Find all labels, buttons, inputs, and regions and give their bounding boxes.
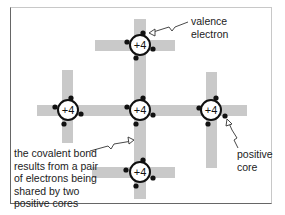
arrowhead-icon xyxy=(226,119,232,126)
electron-dot xyxy=(124,39,129,44)
label-covalent-bond: the covalent bond results from a pair of… xyxy=(14,147,98,210)
electron-dot xyxy=(140,95,145,100)
label-line: core xyxy=(237,161,273,174)
label-positive-core: positive core xyxy=(237,148,273,173)
charge-label: +4 xyxy=(134,166,147,178)
arrowhead-icon xyxy=(149,29,155,36)
label-line: electron xyxy=(191,28,228,41)
electron-dot xyxy=(150,112,155,117)
electron-dot xyxy=(68,95,73,100)
electron-dot xyxy=(140,157,145,162)
electron-dot xyxy=(133,55,138,60)
charge-label: +4 xyxy=(205,104,218,116)
label-line: the covalent bond xyxy=(14,147,98,160)
charge-label: +4 xyxy=(62,104,75,116)
electron-dot xyxy=(123,167,128,172)
electron-dot xyxy=(222,113,227,118)
electron-dot xyxy=(205,121,210,126)
electron-dot xyxy=(196,105,201,110)
electron-dot xyxy=(140,30,145,35)
arrowhead-icon xyxy=(128,137,134,144)
charge-label: +4 xyxy=(134,39,147,51)
arrow-valence-electron xyxy=(150,22,188,33)
electron-dot xyxy=(124,104,129,109)
electron-dot xyxy=(78,111,83,116)
label-line: of electrons being xyxy=(14,172,98,185)
electron-dot xyxy=(150,46,155,51)
label-line: shared by two xyxy=(14,185,98,198)
electron-dot xyxy=(150,175,155,180)
electron-dot xyxy=(61,121,66,126)
label-line: positive cores xyxy=(14,197,98,210)
electron-dot xyxy=(52,104,57,109)
label-line: results from a pair xyxy=(14,160,98,173)
label-valence-electron: valence electron xyxy=(191,15,228,40)
covalent-bond-diagram: +4 +4 +4 +4 xyxy=(0,0,285,215)
electron-dot xyxy=(133,183,138,188)
label-line: positive xyxy=(237,148,273,161)
electron-dot xyxy=(133,121,138,126)
label-line: valence xyxy=(191,15,228,28)
electron-dot xyxy=(213,95,218,100)
charge-label: +4 xyxy=(134,104,147,116)
